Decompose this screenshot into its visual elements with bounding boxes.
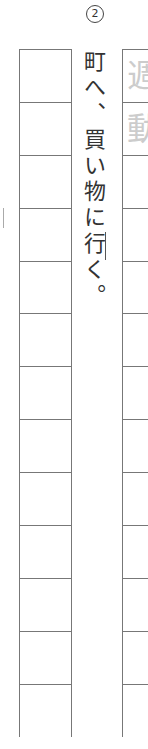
- grid-cell[interactable]: 動: [123, 102, 148, 155]
- grid-cell[interactable]: [20, 49, 71, 102]
- grid-cell[interactable]: [20, 525, 71, 578]
- grid-cell[interactable]: [123, 155, 148, 208]
- underline-mark: [105, 232, 106, 260]
- grid-cell[interactable]: 週: [123, 49, 148, 102]
- answer-grid-right: 週動: [122, 49, 148, 737]
- grid-cell[interactable]: [20, 631, 71, 684]
- grid-cell[interactable]: [123, 366, 148, 419]
- grid-cell[interactable]: [20, 684, 71, 737]
- grid-cell[interactable]: [123, 472, 148, 525]
- grid-cell[interactable]: [20, 102, 71, 155]
- grid-cell[interactable]: [123, 578, 148, 631]
- grid-cell[interactable]: [20, 313, 71, 366]
- grid-cell[interactable]: [20, 419, 71, 472]
- grid-cell[interactable]: [20, 155, 71, 208]
- grid-cell[interactable]: [123, 208, 148, 261]
- tracing-char: 週: [127, 54, 148, 98]
- grid-cell[interactable]: [20, 208, 71, 261]
- problem-number: 2: [86, 5, 104, 23]
- grid-cell[interactable]: [123, 631, 148, 684]
- grid-cell[interactable]: [20, 261, 71, 314]
- answer-grid-left: [19, 49, 72, 737]
- grid-cell[interactable]: [123, 684, 148, 737]
- grid-cell[interactable]: [20, 366, 71, 419]
- grid-cell[interactable]: [123, 313, 148, 366]
- grid-cell[interactable]: [123, 525, 148, 578]
- grid-cell[interactable]: [20, 578, 71, 631]
- problem-sentence: 町へ、買い物に行く。: [80, 50, 104, 310]
- grid-cell[interactable]: [123, 419, 148, 472]
- grid-cell[interactable]: [123, 261, 148, 314]
- tracing-char: 動: [127, 107, 148, 151]
- margin-mark: [3, 208, 4, 228]
- grid-cell[interactable]: [20, 472, 71, 525]
